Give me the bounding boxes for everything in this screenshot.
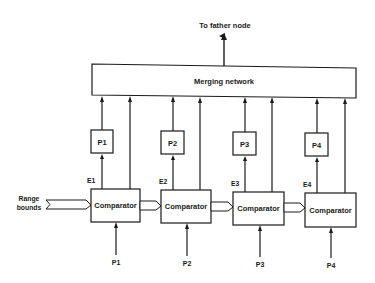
processor-label-3: P3 <box>240 140 249 149</box>
input-label-1: P1 <box>112 259 121 266</box>
unit-3: P3 E3 Comparator P3 <box>231 97 284 268</box>
top-label: To father node <box>199 21 251 30</box>
double-arrow-icon <box>140 201 161 210</box>
double-arrow-icon <box>211 202 233 211</box>
unit-2: P2 E2 Comparator P2 <box>159 96 211 267</box>
enable-label-2: E2 <box>159 178 168 185</box>
comparator-merging-diagram: To father node Merging network Range bou… <box>0 0 375 283</box>
double-arrow-icon <box>284 203 305 212</box>
comparator-label-2: Comparator <box>165 202 208 211</box>
processor-label-2: P2 <box>168 139 177 148</box>
double-arrow-icon <box>46 200 91 209</box>
input-label-3: P3 <box>256 261 265 268</box>
merging-network-label: Merging network <box>194 77 255 86</box>
comparator-label-4: Comparator <box>309 206 352 215</box>
comparator-label-1: Comparator <box>94 201 137 210</box>
range-bounds-input: Range bounds <box>17 195 91 211</box>
unit-4: P4 E4 Comparator P4 <box>303 98 356 269</box>
merging-network: Merging network <box>92 64 356 98</box>
unit-1: P1 E1 Comparator P1 <box>87 96 140 266</box>
enable-label-4: E4 <box>303 181 312 188</box>
enable-label-1: E1 <box>87 177 96 184</box>
range-bounds-line1: Range <box>19 195 40 203</box>
output-to-father: To father node <box>199 21 251 66</box>
processor-label-4: P4 <box>312 141 322 150</box>
comparator-label-3: Comparator <box>237 204 280 213</box>
processor-label-1: P1 <box>97 138 106 147</box>
input-label-4: P4 <box>327 262 336 269</box>
input-label-2: P2 <box>183 260 192 267</box>
range-bounds-line2: bounds <box>17 204 42 211</box>
arrow-up-icon <box>221 33 227 40</box>
enable-label-3: E3 <box>231 180 240 187</box>
